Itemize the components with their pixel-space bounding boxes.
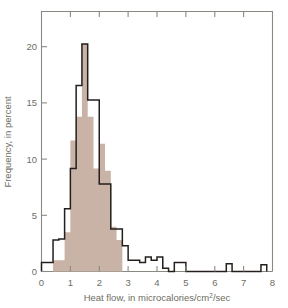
y-tick-10: 10 xyxy=(26,154,47,165)
x-tick-0: 0 xyxy=(39,277,44,288)
x-tick-label-3: 3 xyxy=(125,277,130,288)
y-tick-label-10: 10 xyxy=(26,154,37,165)
y-axis-label: Frequency, in percent xyxy=(2,96,13,188)
x-axis-label-prefix: Heat flow, in microcalories/cm xyxy=(84,292,210,303)
x-tick-label-6: 6 xyxy=(212,277,217,288)
y-tick-20: 20 xyxy=(26,41,47,52)
x-tick-label-2: 2 xyxy=(97,277,102,288)
y-tick-15: 15 xyxy=(26,97,47,108)
histogram-plot-svg: 0 5 10 15 20 0 xyxy=(0,0,288,308)
y-tick-0: 0 xyxy=(32,266,47,277)
x-tick-label-4: 4 xyxy=(154,277,159,288)
y-tick-label-5: 5 xyxy=(32,210,37,221)
histogram-figure: 0 5 10 15 20 0 xyxy=(0,0,288,308)
x-tick-8: 8 xyxy=(270,277,275,288)
x-axis-top-ticks xyxy=(70,12,243,18)
x-tick-label-8: 8 xyxy=(270,277,275,288)
x-tick-5: 5 xyxy=(183,266,188,288)
x-tick-3: 3 xyxy=(125,266,130,288)
x-tick-7: 7 xyxy=(241,266,246,288)
y-tick-label-0: 0 xyxy=(32,266,37,277)
x-tick-6: 6 xyxy=(212,266,217,288)
x-tick-label-5: 5 xyxy=(183,277,188,288)
x-tick-4: 4 xyxy=(154,266,159,288)
y-tick-5: 5 xyxy=(32,210,47,221)
y-tick-label-20: 20 xyxy=(26,41,37,52)
y-tick-label-15: 15 xyxy=(26,97,37,108)
x-tick-label-7: 7 xyxy=(241,277,246,288)
y-axis-ticks-group: 0 5 10 15 20 xyxy=(26,41,47,277)
x-tick-label-1: 1 xyxy=(68,277,73,288)
x-tick-label-0: 0 xyxy=(39,277,44,288)
x-axis-label-suffix: /sec xyxy=(213,292,231,303)
x-axis-label: Heat flow, in microcalories/cm2/sec xyxy=(84,292,231,304)
